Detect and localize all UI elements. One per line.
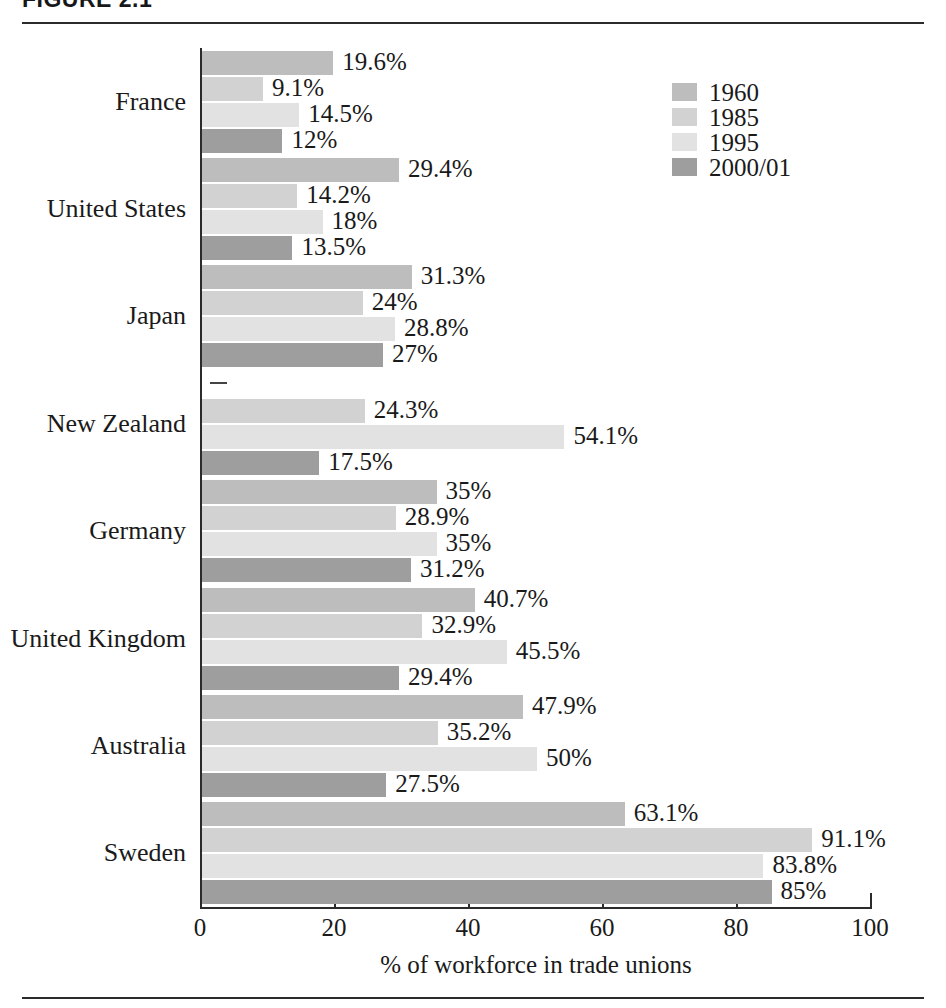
x-tick-label: 0 (160, 914, 240, 942)
bar (202, 802, 625, 826)
bar (202, 51, 333, 75)
bar (202, 773, 386, 797)
bar (202, 721, 438, 745)
bar-value-label: 35% (437, 530, 492, 558)
bar-row: 17.5% (202, 451, 872, 475)
bar-no-data (202, 373, 204, 397)
bar-value-label: 28.9% (396, 504, 470, 532)
x-tick-label: 40 (428, 914, 508, 942)
bar (202, 184, 297, 208)
bar-row (202, 373, 872, 397)
category-label: France (115, 87, 186, 117)
category-label: United States (47, 194, 186, 224)
x-tick-label: 60 (562, 914, 642, 942)
bar (202, 77, 263, 101)
bar-group: Australia47.9%35.2%50%27.5% (0, 692, 946, 799)
bar-row: 31.3% (202, 265, 872, 289)
bar-row: 28.9% (202, 506, 872, 530)
bar-row: 35.2% (202, 721, 872, 745)
bar (202, 343, 383, 367)
bar-value-label: 29.4% (399, 663, 473, 691)
bar-group: Japan31.3%24%28.8%27% (0, 263, 946, 370)
bar-row: 45.5% (202, 640, 872, 664)
x-tick-label: 20 (294, 914, 374, 942)
bar (202, 317, 395, 341)
bar (202, 695, 523, 719)
bar (202, 880, 772, 904)
bar (202, 558, 411, 582)
category-label: Germany (89, 516, 186, 546)
bar-row: 50% (202, 747, 872, 771)
bar-value-label: 18% (323, 208, 378, 236)
bar-value-label: 27% (383, 341, 438, 369)
bar-row: 31.2% (202, 558, 872, 582)
bar-value-label: 24.3% (365, 396, 439, 424)
bar-row: 47.9% (202, 695, 872, 719)
bar-value-label: 9.1% (263, 74, 324, 102)
bar-chart: 020406080100 France19.6%9.1%14.5%12%Unit… (0, 30, 946, 990)
bar (202, 666, 399, 690)
x-tick-label: 100 (830, 914, 910, 942)
bar-value-label: 19.6% (333, 48, 407, 76)
bar-value-label: 24% (363, 289, 418, 317)
bar (202, 532, 437, 556)
bar (202, 854, 763, 878)
bar-value-label: 13.5% (292, 234, 366, 262)
bar (202, 425, 564, 449)
bar-row: 85% (202, 880, 872, 904)
bar (202, 614, 422, 638)
bar-value-label: 12% (282, 126, 337, 154)
category-label: Japan (127, 301, 186, 331)
bar-group: United Kingdom40.7%32.9%45.5%29.4% (0, 585, 946, 692)
legend-swatch-icon (672, 83, 697, 101)
bar-value-label: 28.8% (395, 315, 469, 343)
bar-row: 19.6% (202, 51, 872, 75)
bar-value-label: 63.1% (625, 800, 699, 828)
bar-row: 35% (202, 532, 872, 556)
bar (202, 265, 412, 289)
figure-title: FIGURE 2.1 (22, 0, 152, 13)
bar (202, 103, 299, 127)
header-rule (22, 22, 924, 24)
category-label: Sweden (104, 838, 186, 868)
legend-label: 1960 (709, 80, 759, 105)
bar-row: 24% (202, 291, 872, 315)
bar-row: 28.8% (202, 317, 872, 341)
x-tick-label: 80 (696, 914, 776, 942)
legend-swatch-icon (672, 108, 697, 126)
bar (202, 640, 507, 664)
category-label: United Kingdom (11, 624, 187, 654)
bar-value-label: 50% (537, 744, 592, 772)
legend-item: 1985 (672, 105, 872, 129)
bar-group: Sweden63.1%91.1%83.8%85% (0, 800, 946, 907)
bar-group: Germany35%28.9%35%31.2% (0, 478, 946, 585)
bar-value-label: 32.9% (422, 611, 496, 639)
category-label: Australia (91, 731, 186, 761)
bar (202, 399, 365, 423)
bar-row: 40.7% (202, 588, 872, 612)
bar-value-label: 91.1% (812, 826, 886, 854)
bar-value-label: 40.7% (475, 585, 549, 613)
bar-row: 24.3% (202, 399, 872, 423)
footer-rule (22, 997, 924, 999)
bar-row: 54.1% (202, 425, 872, 449)
bar (202, 210, 323, 234)
bar (202, 158, 399, 182)
legend-label: 1995 (709, 130, 759, 155)
bar (202, 747, 537, 771)
category-label: New Zealand (47, 409, 186, 439)
legend-item: 1995 (672, 130, 872, 154)
bar (202, 129, 282, 153)
bar-value-label: 45.5% (507, 637, 581, 665)
bar-value-label: 47.9% (523, 692, 597, 720)
bar-value-label: 54.1% (564, 422, 638, 450)
bar-value-label: 35% (437, 478, 492, 506)
chart-legend: 1960198519952000/01 (672, 80, 872, 180)
legend-swatch-icon (672, 133, 697, 151)
bar (202, 236, 292, 260)
bar-value-label: 29.4% (399, 156, 473, 184)
bar-row: 18% (202, 210, 872, 234)
bar-row: 29.4% (202, 666, 872, 690)
bar-value-label: 83.8% (763, 852, 837, 880)
bar-value-label: 14.5% (299, 100, 373, 128)
